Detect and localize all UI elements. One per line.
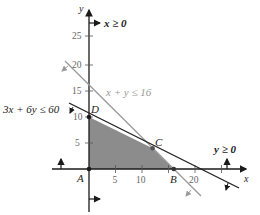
vertex-label-B: B (170, 173, 177, 185)
label-x-plus-y-16: x + y ≤ 16 (105, 86, 152, 98)
graph-canvas: 5 10 20 5 10 15 20 25 y x x + y ≤ 16 3x … (0, 0, 260, 215)
y-axis-label: y (78, 3, 84, 14)
vertex-A (87, 167, 92, 172)
line-sum-direction-arrow-bottom (186, 190, 191, 196)
feasible-region-graph: 5 10 20 5 10 15 20 25 y x x + y ≤ 16 3x … (0, 0, 260, 215)
label-x-nonneg: x ≥ 0 (103, 17, 127, 29)
y-tick-10: 10 (73, 112, 83, 122)
line-sum-direction-arrow-top (62, 66, 68, 71)
vertex-label-A: A (76, 172, 84, 184)
line-x-plus-y-16 (65, 61, 201, 196)
label-3x-plus-6y-60: 3x + 6y ≤ 60 (2, 103, 60, 115)
vertex-D (87, 115, 92, 120)
label-y-nonneg: y ≥ 0 (212, 143, 236, 155)
vertex-label-D: D (90, 103, 99, 115)
y-tick-15: 15 (72, 86, 82, 96)
vertex-B (172, 167, 177, 172)
x-tick-20: 20 (189, 175, 199, 185)
x-tick-10: 10 (136, 175, 146, 185)
y-tick-25: 25 (72, 31, 82, 41)
vertex-label-C: C (155, 136, 163, 148)
y-tick-5: 5 (75, 138, 80, 148)
line-main-direction-arrow-right (226, 183, 228, 190)
x-axis-label: x (243, 173, 249, 184)
x-tick-5: 5 (113, 175, 118, 185)
